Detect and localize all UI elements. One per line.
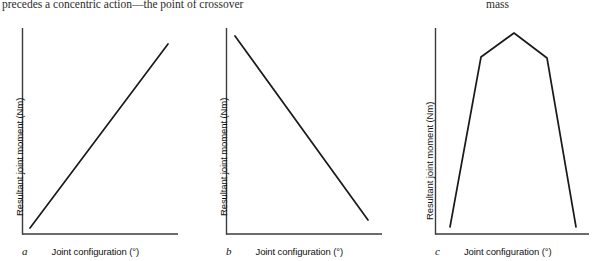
- panel-c-footer: c Joint configuration (°): [435, 241, 551, 255]
- y-axis-label-a: Resultant joint moment (Nm): [14, 98, 25, 216]
- data-series-b: [235, 36, 368, 220]
- x-axis-label-c: Joint configuration (°): [464, 246, 552, 257]
- data-series-a: [30, 44, 168, 228]
- x-axis-label-a: Joint configuration (°): [52, 246, 140, 257]
- x-axis-label-b: Joint configuration (°): [256, 246, 344, 257]
- plot-a: [0, 24, 196, 244]
- data-series-c: [450, 33, 576, 227]
- left-column-text: precedes a concentric action—the point o…: [2, 0, 243, 10]
- chart-panel-a: Resultant joint moment (Nm) a Joint conf…: [0, 24, 196, 261]
- panel-b-footer: b Joint configuration (°): [226, 241, 343, 255]
- panel-letter-c: c: [435, 245, 440, 257]
- chart-panel-b: Resultant joint moment (Nm) b Joint conf…: [204, 24, 400, 261]
- panel-a-footer: a Joint configuration (°): [22, 241, 139, 255]
- panel-letter-a: a: [22, 245, 28, 257]
- figure-page: { "page": { "left_column_text": "precede…: [0, 0, 595, 261]
- y-axis-label-b: Resultant joint moment (Nm): [218, 98, 229, 216]
- right-column-text: mass: [486, 0, 509, 10]
- y-axis-label-c: Resultant joint moment (Nm): [424, 102, 435, 220]
- plot-b: [204, 24, 400, 244]
- chart-panel-c: Resultant joint moment (Nm) c Joint conf…: [404, 24, 595, 261]
- panel-letter-b: b: [226, 245, 232, 257]
